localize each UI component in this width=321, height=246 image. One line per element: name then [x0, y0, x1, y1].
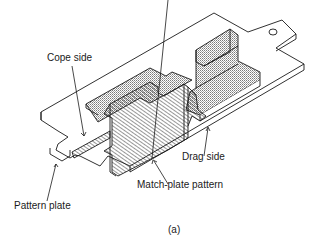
pattern-plate-leader	[47, 164, 56, 201]
match-plate-figure: Cope side Drag side Match-plate pattern …	[0, 0, 321, 246]
drag-side-label: Drag side	[182, 152, 225, 162]
figure-caption: (a)	[168, 225, 180, 235]
match-plate-pattern-label: Match-plate pattern	[137, 180, 223, 190]
cope-side-label: Cope side	[47, 53, 92, 63]
pattern-plate-label: Pattern plate	[14, 201, 71, 211]
